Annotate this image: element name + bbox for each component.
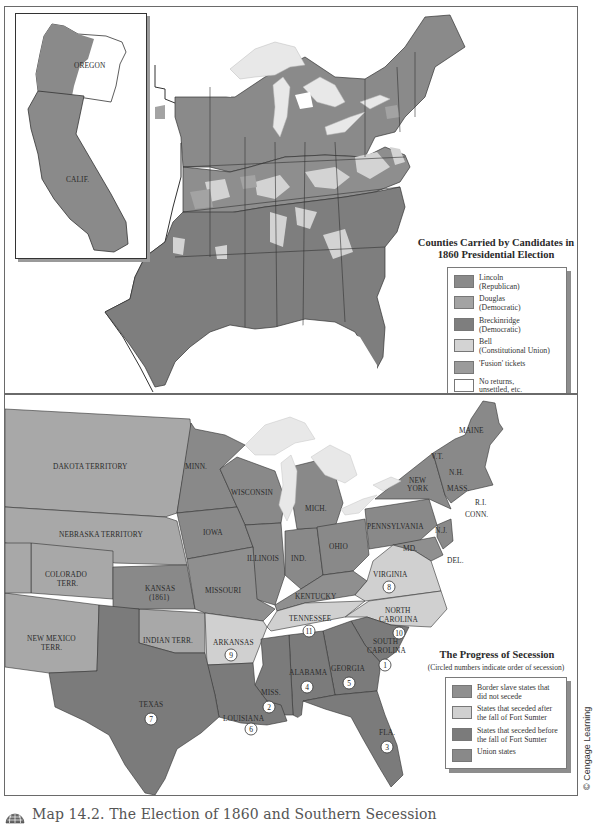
label-ind: IND. — [291, 554, 306, 563]
secession-number-virginia: 8 — [383, 581, 395, 593]
legend-item-seceded-before: States that seceded beforethe fall of Fo… — [452, 727, 560, 744]
legend-item-douglas: Douglas(Democratic) — [454, 295, 560, 312]
election-legend-title: Counties Carried by Candidates in 1860 P… — [413, 237, 578, 261]
secession-number-miss: 2 — [263, 701, 275, 713]
label-north-carolina-1: NORTH — [385, 606, 411, 615]
label-colorado-1: COLORADO — [45, 570, 87, 579]
label-indian-terr: INDIAN TERR. — [143, 636, 193, 645]
label-kentucky: KENTUCKY — [295, 592, 337, 601]
label-wisconsin: WISCONSIN — [231, 488, 274, 497]
election-legend-title-line2: 1860 Presidential Election — [413, 249, 578, 261]
svg-text:1: 1 — [383, 661, 387, 670]
pacific-inset-graphic: OREGON CALIF. — [16, 14, 147, 259]
legend-item-lincoln: Lincoln(Republican) — [454, 274, 560, 291]
legend-label: Douglas(Democratic) — [479, 295, 521, 312]
legend-label: 'Fusion' tickets — [479, 360, 525, 369]
secession-number-texas: 7 — [145, 713, 157, 725]
label-colorado-2: TERR. — [57, 579, 78, 588]
secession-legend-title: The Progress of Secession — [417, 649, 577, 661]
legend-label: Breckinridge(Democratic) — [479, 317, 521, 334]
label-conn: CONN. — [465, 510, 488, 519]
oregon-label: OREGON — [74, 61, 106, 70]
svg-text:7: 7 — [149, 715, 153, 724]
label-north-carolina-2: CAROLINA — [379, 615, 419, 624]
label-new-york-2: YORK — [407, 484, 429, 493]
election-1860-map: OREGON CALIF. Counties Carried by Candid… — [4, 6, 578, 394]
secession-map: DAKOTA TERRITORY NEBRASKA TERRITORY COLO… — [4, 394, 578, 796]
label-new-mexico-1: NEW MEXICO — [27, 634, 76, 643]
secession-number-north-carolina: 10 — [393, 627, 405, 639]
secession-legend: Border slave states thatdid not secede S… — [445, 677, 567, 769]
legend-item-union: Union states — [452, 748, 560, 762]
svg-text:8: 8 — [387, 583, 391, 592]
legend-item-border-slave: Border slave states thatdid not secede — [452, 684, 560, 701]
secession-number-fla: 3 — [381, 741, 393, 753]
california-label: CALIF. — [66, 175, 89, 184]
copyright-credit: © Cengage Learning — [582, 707, 592, 790]
seceded-after-swatch — [452, 706, 472, 719]
label-vt: V.T. — [431, 452, 443, 461]
svg-text:11: 11 — [305, 627, 312, 636]
secession-number-louisiana: 6 — [245, 723, 257, 735]
label-nj: N.J. — [435, 526, 447, 535]
douglas-swatch — [454, 296, 474, 309]
label-maine: MAINE — [459, 426, 484, 435]
label-south-carolina-1: SOUTH — [373, 637, 399, 646]
secession-number-tennessee: 11 — [303, 625, 315, 637]
label-ri: R.I. — [475, 498, 487, 507]
election-legend-title-line1: Counties Carried by Candidates in — [413, 237, 578, 249]
legend-label: States that seceded beforethe fall of Fo… — [477, 727, 558, 744]
label-louisiana: LOUISIANA — [223, 714, 265, 723]
label-mich: MICH. — [305, 504, 327, 513]
label-minn: MINN. — [185, 462, 207, 471]
label-nebraska: NEBRASKA TERRITORY — [59, 530, 143, 539]
globe-icon — [4, 804, 26, 824]
lincoln-swatch — [454, 275, 474, 288]
svg-text:9: 9 — [229, 651, 233, 660]
no-returns-swatch — [454, 379, 474, 392]
breckinridge-swatch — [454, 318, 474, 331]
legend-label: Union states — [477, 748, 516, 757]
legend-label: Bell(Constitutional Union) — [479, 338, 550, 355]
legend-item-bell: Bell(Constitutional Union) — [454, 338, 560, 355]
label-pennsylvania: PENNSYLVANIA — [367, 522, 424, 531]
legend-item-seceded-after: States that seceded afterthe fall of For… — [452, 705, 560, 722]
label-arkansas: ARKANSAS — [213, 638, 254, 647]
secession-number-alabama: 4 — [301, 681, 313, 693]
label-del: DEL. — [447, 556, 464, 565]
legend-label: Border slave states thatdid not secede — [477, 684, 550, 701]
label-tennessee: TENNESSEE — [289, 614, 332, 623]
new-mexico-territory — [5, 593, 99, 673]
label-new-mexico-2: TERR. — [41, 643, 62, 652]
label-alabama: ALABAMA — [289, 668, 328, 677]
label-missouri: MISSOURI — [205, 586, 242, 595]
caption-text: Map 14.2. The Election of 1860 and South… — [32, 806, 437, 822]
label-georgia: GEORGIA — [331, 664, 366, 673]
secession-number-sc: 1 — [379, 659, 391, 671]
svg-text:6: 6 — [249, 725, 253, 734]
label-fla: FLA. — [379, 728, 395, 737]
map-caption: Map 14.2. The Election of 1860 and South… — [4, 804, 437, 824]
label-mass: MASS. — [447, 484, 470, 493]
seceded-before-swatch — [452, 728, 472, 741]
border-slave-swatch — [452, 685, 472, 698]
label-nh: N.H. — [449, 468, 464, 477]
pacific-inset-map: OREGON CALIF. — [15, 13, 147, 259]
label-miss: MISS. — [261, 688, 281, 697]
secession-number-arkansas: 9 — [225, 649, 237, 661]
svg-text:2: 2 — [267, 703, 271, 712]
label-ohio: OHIO — [329, 542, 348, 551]
legend-item-fusion: 'Fusion' tickets — [454, 360, 560, 374]
legend-label: Lincoln(Republican) — [479, 274, 520, 291]
label-illinois: ILLINOIS — [247, 554, 279, 563]
label-kansas-1: KANSAS — [145, 584, 175, 593]
secession-legend-subtitle: (Circled numbers indicate order of seces… — [413, 663, 578, 672]
legend-label: States that seceded afterthe fall of For… — [477, 705, 552, 722]
legend-item-breckinridge: Breckinridge(Democratic) — [454, 317, 560, 334]
label-virginia: VIRGINIA — [373, 570, 408, 579]
legend-label: No returns,unsettled, etc. — [479, 378, 522, 394]
election-legend: Lincoln(Republican) Douglas(Democratic) … — [447, 267, 567, 394]
label-texas: TEXAS — [139, 700, 163, 709]
svg-text:10: 10 — [395, 629, 403, 638]
fusion-swatch — [454, 361, 474, 374]
